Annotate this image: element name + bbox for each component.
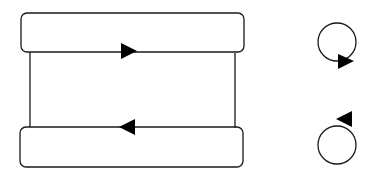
counterclockwise-loop-icon <box>318 111 356 164</box>
top-box <box>21 13 244 52</box>
loop-diagram <box>0 0 390 175</box>
diagram-canvas <box>0 0 390 175</box>
clockwise-loop-icon <box>318 23 356 69</box>
